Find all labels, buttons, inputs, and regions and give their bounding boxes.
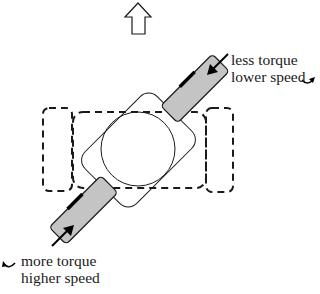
wheel-bottom-left xyxy=(49,176,118,245)
dashed-outline-right-wheel xyxy=(206,108,233,192)
bottom-wheel-label-line1: more torque xyxy=(21,252,96,269)
top-wheel-label-line2: lower speed xyxy=(231,68,306,85)
curved-rotation-arrow-icon xyxy=(2,261,15,267)
bottom-wheel-label-line2: higher speed xyxy=(21,269,100,286)
top-wheel-label-line1: less torque xyxy=(231,51,298,68)
dashed-outline-left-wheel xyxy=(43,108,72,191)
up-arrow-outline-icon xyxy=(125,3,151,34)
body-circle xyxy=(101,112,175,186)
robot-turning-diagram: less torque lower speed more torque high… xyxy=(0,0,320,294)
